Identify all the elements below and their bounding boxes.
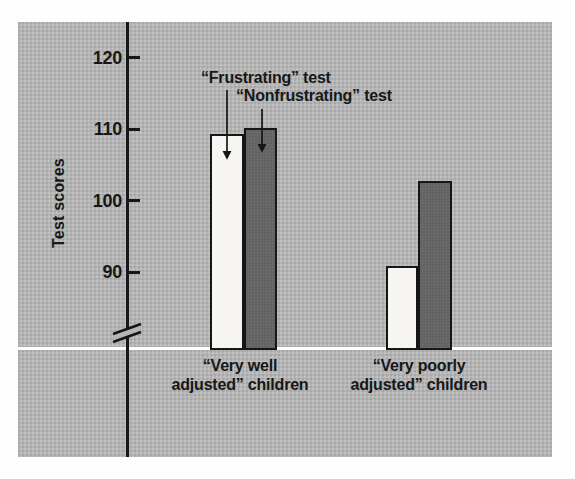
legend-label-nonfrustrating: “Nonfrustrating” test	[236, 87, 392, 105]
y-tick-mark	[129, 56, 140, 59]
y-tick-mark	[129, 199, 140, 202]
legend-label-frustrating: “Frustrating” test	[201, 69, 331, 87]
y-tick-label: 100	[62, 191, 122, 211]
bar-poorly-adjusted-nonfrustrating	[418, 181, 452, 350]
y-tick-label: 110	[62, 119, 122, 139]
y-tick-mark	[129, 128, 140, 131]
x-baseline	[18, 347, 552, 350]
category-label-line: adjusted” children	[314, 375, 524, 394]
y-tick-label: 90	[62, 262, 122, 282]
bar-well-adjusted-frustrating	[210, 134, 244, 350]
category-label-line: “Very poorly	[314, 356, 524, 375]
figure: 90100110120 Test scores “Frustrating” te…	[0, 0, 575, 479]
category-label-poorly-adjusted: “Very poorly adjusted” children	[314, 356, 524, 394]
y-tick-mark	[129, 271, 140, 274]
y-tick-label: 120	[62, 48, 122, 68]
y-axis	[126, 22, 129, 457]
y-axis-title: Test scores	[50, 158, 68, 248]
bar-poorly-adjusted-frustrating	[386, 266, 418, 350]
bar-well-adjusted-nonfrustrating	[244, 128, 277, 350]
